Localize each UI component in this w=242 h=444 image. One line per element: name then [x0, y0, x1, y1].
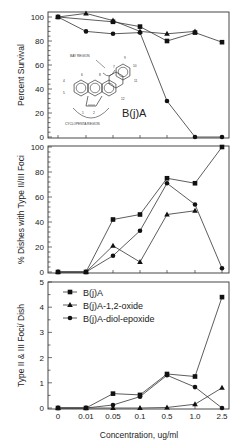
circle-marker	[165, 181, 170, 186]
x-tick-label: 0.1	[134, 412, 146, 421]
atom-number: 12	[121, 97, 125, 101]
series-triangle	[55, 10, 198, 35]
x-tick-label: 1.0	[189, 412, 201, 421]
y-tick-label: 0	[40, 133, 45, 142]
legend-label: B(j)A-diol-epoxide	[83, 314, 155, 324]
x-tick-label: 0.05	[105, 412, 121, 421]
legend-item: B(j)A	[63, 288, 103, 298]
triangle-marker	[83, 10, 89, 15]
triangle-marker	[192, 401, 198, 406]
y-tick-label: 5	[40, 278, 45, 287]
atom-number: 6	[81, 73, 83, 77]
legend-item: B(j)A-diol-epoxide	[63, 314, 155, 324]
triangle-marker	[219, 385, 225, 390]
x-tick-label: 2.5	[216, 412, 228, 421]
square-marker	[193, 374, 198, 379]
series-triangle	[55, 208, 198, 274]
panel-percent-dishes-foci: 020406080100% Dishes with Type II/III Fo…	[16, 143, 229, 277]
triangle-marker	[137, 259, 143, 264]
bay-region-label: BAY REGION	[70, 54, 90, 58]
y-axis-title: Percent Survival	[16, 44, 26, 106]
y-tick-label: 60	[35, 193, 44, 202]
y-tick-label: 40	[35, 218, 44, 227]
y-tick-label: 0	[40, 404, 45, 413]
series-square	[56, 145, 225, 275]
triangle-marker	[137, 405, 143, 410]
y-tick-label: 80	[35, 37, 44, 46]
y-tick-label: 20	[35, 243, 44, 252]
square-marker	[138, 24, 143, 29]
atom-number: 8	[99, 73, 101, 77]
circle-marker	[193, 202, 198, 207]
series-circle	[56, 15, 225, 140]
circle-marker	[193, 135, 198, 140]
y-tick-label: 0	[40, 268, 45, 277]
circle-marker	[193, 385, 198, 390]
atom-number: 1	[82, 111, 84, 115]
circle-marker	[56, 15, 61, 20]
y-tick-label: 60	[35, 61, 44, 70]
circle-marker	[165, 373, 170, 378]
circle-marker	[138, 228, 143, 233]
atom-number: 7	[113, 65, 115, 69]
series-square	[56, 295, 225, 410]
square-marker	[138, 212, 143, 217]
square-marker	[111, 391, 116, 396]
circle-marker	[84, 270, 89, 275]
y-tick-label: 20	[35, 109, 44, 118]
x-tick-label: 0.5	[161, 412, 173, 421]
y-tick-label: 4	[40, 303, 45, 312]
circle-marker	[220, 266, 225, 271]
square-marker	[165, 39, 170, 44]
atom-number: 10	[133, 64, 137, 68]
circle-marker	[165, 99, 170, 104]
atom-number: 5	[63, 91, 65, 95]
plot-frame	[48, 146, 229, 273]
y-tick-label: 2	[40, 354, 45, 363]
legend-circle-marker	[68, 316, 73, 321]
x-axis-title: Concentration, ug/ml	[100, 430, 179, 440]
square-marker	[165, 176, 170, 181]
y-tick-label: 40	[35, 85, 44, 94]
legend-item: B(j)A-1,2-oxide	[63, 301, 143, 311]
square-marker	[220, 40, 225, 45]
legend: B(j)AB(j)A-1,2-oxideB(j)A-diol-epoxide	[63, 288, 155, 324]
square-marker	[193, 181, 198, 186]
legend-label: B(j)A	[83, 288, 103, 298]
circle-marker	[56, 406, 61, 411]
square-marker	[220, 295, 225, 300]
y-tick-label: 100	[31, 143, 45, 152]
panel-foci-per-dish: 01234500.010.050.10.51.02.5Type II & III…	[16, 278, 229, 421]
circle-marker	[84, 29, 89, 34]
y-axis-title: % Dishes with Type II/III Foci	[16, 155, 26, 264]
legend-square-marker	[68, 290, 73, 295]
square-marker	[111, 217, 116, 222]
figure: 020406080100Percent Survival 02040608010…	[0, 0, 242, 444]
atom-number: 9	[124, 56, 126, 60]
square-marker	[220, 145, 225, 150]
molecule-label: B(j)A	[122, 107, 147, 119]
circle-marker	[138, 394, 143, 399]
y-tick-label: 3	[40, 328, 45, 337]
panel-percent-survival: 020406080100Percent Survival	[16, 10, 229, 142]
y-axis-title: Type II & III Foci/ Dish	[16, 304, 26, 387]
circle-marker	[138, 30, 143, 35]
circle-marker	[220, 406, 225, 411]
circle-marker	[111, 403, 116, 408]
x-tick-label: 0.01	[78, 412, 94, 421]
atom-number: 11	[134, 79, 138, 83]
atom-number: 2	[93, 111, 95, 115]
legend-label: B(j)A-1,2-oxide	[83, 301, 143, 311]
circle-marker	[111, 32, 116, 37]
circle-marker	[56, 270, 61, 275]
y-tick-label: 80	[35, 168, 44, 177]
series-circle	[56, 373, 225, 410]
circle-marker	[220, 135, 225, 140]
circle-marker	[84, 406, 89, 411]
x-tick-label: 0	[56, 412, 61, 421]
cyclopenta-region-label: CYCLOPENTA REGION	[65, 122, 100, 126]
circle-marker	[111, 253, 116, 258]
triangle-marker	[110, 243, 116, 248]
legend-triangle-marker	[67, 302, 73, 307]
y-tick-label: 1	[40, 379, 45, 388]
